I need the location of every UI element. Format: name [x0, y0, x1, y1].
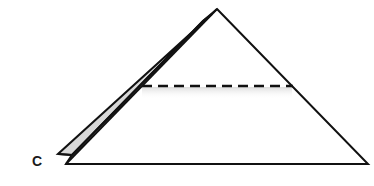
origami-diagram: C — [0, 0, 374, 186]
main-triangle — [66, 9, 368, 164]
flap-tip-edge — [58, 154, 72, 155]
diagram-svg — [0, 0, 374, 186]
fold-shadow — [142, 87, 292, 99]
corner-c-label: C — [32, 153, 42, 169]
